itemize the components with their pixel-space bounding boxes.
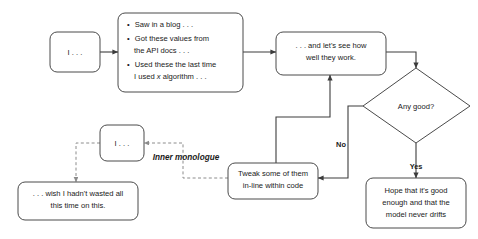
node-hope-line-3: model never drifts <box>386 210 447 219</box>
node-start-prompt-label: I . . . <box>68 48 83 57</box>
bullet-marker-3: • <box>127 60 130 69</box>
flowchart-canvas: I . . . • Saw in a blog . . . • Got thes… <box>0 0 478 239</box>
branch-label-no: No <box>336 140 346 149</box>
node-regret-line-1: . . . wish I hadn't wasted all <box>33 189 124 198</box>
node-inner-prompt-label: I . . . <box>115 139 130 148</box>
node-tweak-line-1: Tweak some of them <box>238 169 308 178</box>
bullet-marker-1: • <box>127 20 130 29</box>
node-decision-label: Any good? <box>398 102 434 111</box>
flowchart-svg: I . . . • Saw in a blog . . . • Got thes… <box>0 0 478 239</box>
node-hope-line-1: Hope that it's good <box>384 186 447 195</box>
branch-label-yes: Yes <box>410 162 423 171</box>
edge-inner-prompt-to-regret <box>76 143 100 182</box>
node-sources-line-1: • Saw in a blog . . . <box>127 20 193 29</box>
node-evaluate-line-2: well they work. <box>305 53 356 62</box>
node-sources-line-4: • Used these the last time <box>127 60 216 69</box>
node-sources-line-5: I used x algorithm . . . <box>134 72 207 81</box>
node-sources-line-5-text: I used x algorithm . . . <box>134 72 207 81</box>
annotation-inner-monologue: Inner monologue <box>153 153 220 162</box>
edge-evaluate-to-decision <box>386 52 416 68</box>
node-tweak-line-2: in-line within code <box>243 181 303 190</box>
node-regret-line-2: this time on this. <box>51 201 106 210</box>
node-hope-line-2: enough and that the <box>382 198 450 207</box>
edge-tweak-to-evaluate <box>276 75 330 163</box>
node-evaluate-line-1: . . . and let's see how <box>295 41 367 50</box>
node-sources-line-2: • Got these values from <box>127 34 209 43</box>
italic-variable: x <box>156 72 162 81</box>
bullet-marker-2: • <box>127 34 130 43</box>
node-sources-line-3: the API docs . . . <box>134 46 189 55</box>
